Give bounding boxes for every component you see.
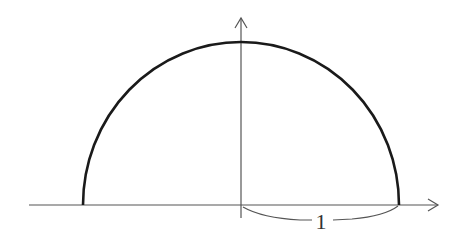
radius-brace-left [243, 207, 312, 220]
radius-brace-right [333, 206, 398, 220]
semicircle-diagram: 1 [0, 0, 458, 236]
radius-label: 1 [316, 209, 327, 234]
